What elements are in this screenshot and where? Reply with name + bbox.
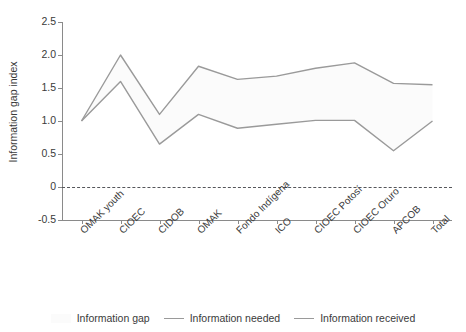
chart-legend: Information gapInformation neededInforma… — [0, 312, 466, 324]
legend-line-swatch-icon — [164, 318, 184, 319]
y-tick-label: 0.5 — [41, 147, 56, 159]
y-tick-label: 0 — [50, 180, 56, 192]
plot-area: 2.52.01.51.00.50-0.5 OMAK youthCIOECCIDO… — [62, 22, 452, 220]
legend-item[interactable]: Information gap — [51, 312, 150, 324]
y-tick-label: 2.5 — [41, 15, 56, 27]
y-tick-mark — [58, 121, 62, 122]
legend-label: Information received — [320, 312, 415, 324]
legend-item[interactable]: Information needed — [164, 312, 280, 324]
y-axis-title: Information gap index — [4, 22, 22, 202]
legend-item[interactable]: Information received — [294, 312, 415, 324]
legend-label: Information needed — [190, 312, 280, 324]
y-tick-label: -0.5 — [38, 213, 56, 225]
legend-label: Information gap — [77, 312, 150, 324]
y-tick-mark — [58, 22, 62, 23]
y-tick-mark — [58, 187, 62, 188]
legend-area-swatch-icon — [51, 314, 71, 323]
y-tick-mark — [58, 55, 62, 56]
y-tick-label: 1.5 — [41, 81, 56, 93]
y-tick-label: 1.0 — [41, 114, 56, 126]
y-tick-mark — [58, 88, 62, 89]
chart-container: Information gap index 2.52.01.51.00.50-0… — [0, 0, 466, 332]
y-tick-mark — [58, 220, 62, 221]
legend-line-swatch-icon — [294, 318, 314, 319]
y-tick-mark — [58, 154, 62, 155]
y-axis-title-label: Information gap index — [7, 62, 19, 163]
y-tick-label: 2.0 — [41, 48, 56, 60]
